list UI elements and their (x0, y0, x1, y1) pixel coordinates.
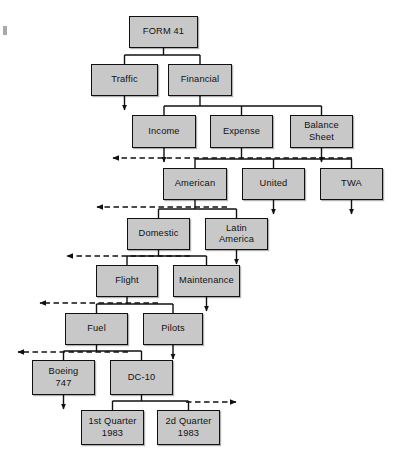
node-united: United (242, 168, 305, 200)
node-dc10: DC-10 (110, 360, 173, 395)
node-financial: Financial (168, 64, 232, 96)
page-edge-mark (3, 26, 7, 35)
node-fuel: Fuel (65, 313, 128, 345)
node-q2: 2d Quarter 1983 (157, 410, 220, 445)
node-q1: 1st Quarter 1983 (81, 410, 144, 445)
node-boeing: Boeing 747 (32, 360, 95, 395)
node-pilots: Pilots (143, 313, 203, 345)
node-form41: FORM 41 (129, 16, 198, 48)
node-latin: Latin America (205, 218, 268, 250)
node-maint: Maintenance (173, 265, 240, 297)
node-domestic: Domestic (127, 218, 190, 250)
node-american: American (163, 168, 227, 200)
node-balance: Balance Sheet (290, 115, 353, 148)
node-flight: Flight (96, 265, 158, 297)
node-income: Income (132, 115, 196, 148)
node-twa: TWA (320, 168, 383, 200)
form41-hierarchy-diagram: FORM 41TrafficFinancialIncomeExpenseBala… (0, 0, 402, 461)
node-traffic: Traffic (91, 64, 158, 96)
node-expense: Expense (210, 115, 273, 148)
